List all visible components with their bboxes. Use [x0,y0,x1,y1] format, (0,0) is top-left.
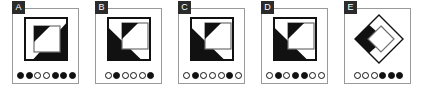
dot-filled-1 [192,72,199,79]
dot-filled-1 [275,72,282,79]
dot-filled-6 [69,72,76,79]
panel-card [178,8,245,84]
panel-letter-badge: A [12,1,25,14]
panel-letter-badge: E [344,1,357,14]
square-with-corner-triangles-icon [262,13,329,65]
square-with-corner-triangles-icon [96,13,163,65]
dot-filled-4 [52,72,59,79]
option-panel-e[interactable]: E [341,0,413,91]
panel-card [261,8,328,84]
dot-filled-5 [60,72,67,79]
dot-open-0 [266,72,273,79]
dot-open-2 [122,72,129,79]
dot-filled-5 [147,72,154,79]
option-panel-a[interactable]: A [9,0,81,91]
dot-open-2 [283,72,290,79]
dot-filled-5 [396,72,403,79]
dot-open-3 [130,72,137,79]
dot-open-0 [183,72,190,79]
dot-open-2 [200,72,207,79]
dot-row [345,69,412,81]
dot-row [96,69,163,81]
dot-open-5 [309,72,316,79]
dot-row [262,69,329,81]
panel-card [95,8,162,84]
panel-letter-badge: C [178,1,191,14]
dot-open-6 [235,72,242,79]
dot-open-0 [354,72,361,79]
dot-open-2 [34,72,41,79]
dot-row [179,69,246,81]
dot-filled-4 [301,72,308,79]
panel-letter-badge: D [261,1,274,14]
dot-open-3 [43,72,50,79]
dot-filled-5 [226,72,233,79]
square-with-corner-triangles-icon [13,13,80,65]
dot-open-4 [139,72,146,79]
option-panel-d[interactable]: D [258,0,330,91]
dot-open-3 [209,72,216,79]
option-panel-b[interactable]: B [92,0,164,91]
dot-open-6 [318,72,325,79]
dot-filled-1 [113,72,120,79]
square-with-corner-triangles-icon [179,13,246,65]
dot-row [13,69,80,81]
dot-filled-1 [26,72,33,79]
dot-filled-3 [379,72,386,79]
nested-diamonds-with-left-black-wedge-icon [345,13,412,65]
dot-open-1 [362,72,369,79]
panel-letter-badge: B [95,1,108,14]
dot-filled-3 [292,72,299,79]
panel-card [344,8,411,84]
stimulus-strip: ABCDE [0,0,422,91]
dot-filled-0 [17,72,24,79]
panel-card [12,8,79,84]
dot-open-2 [371,72,378,79]
dot-filled-4 [388,72,395,79]
dot-open-0 [105,72,112,79]
option-panel-c[interactable]: C [175,0,247,91]
dot-open-4 [218,72,225,79]
